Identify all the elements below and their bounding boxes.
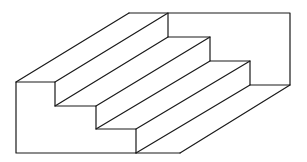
depth-line (180, 85, 290, 153)
back-profile (129, 13, 290, 85)
back-step-outline (129, 13, 290, 85)
staircase-drawing (0, 0, 307, 162)
depth-edges (16, 13, 290, 153)
